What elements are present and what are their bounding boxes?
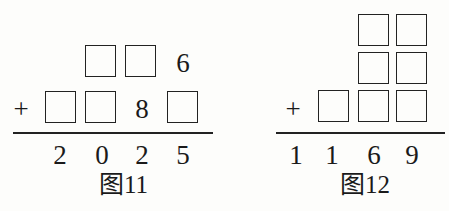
fig11-sum-digit-3: 2 — [127, 142, 157, 169]
fig11-row1-box-1[interactable] — [85, 45, 116, 77]
fig12-row1-box-2[interactable] — [396, 14, 427, 46]
fig12-row3-box-3[interactable] — [396, 90, 427, 122]
fig12-plus-sign: + — [278, 96, 308, 123]
fig11-row1-box-2[interactable] — [125, 45, 156, 77]
fig12-row2-box-1[interactable] — [358, 52, 389, 84]
fig12-sum-line — [276, 132, 445, 134]
fig11-sum-digit-4: 5 — [168, 142, 198, 169]
fig12-row3-box-1[interactable] — [318, 90, 349, 122]
fig12-sum-digit-2: 1 — [317, 142, 347, 169]
fig11-row2-box-2[interactable] — [85, 91, 116, 123]
fig11-row2-box-1[interactable] — [45, 91, 76, 123]
fig11-caption: 图11 — [99, 172, 148, 197]
fig11-row2-box-3[interactable] — [167, 91, 198, 123]
fig11-plus-sign: + — [6, 96, 36, 123]
fig12-row1-box-1[interactable] — [358, 14, 389, 46]
fig11-row2-digit: 8 — [127, 96, 157, 123]
fig12-sum-digit-3: 6 — [359, 142, 389, 169]
fig12-caption: 图12 — [340, 172, 390, 197]
fig12-sum-digit-1: 1 — [281, 142, 311, 169]
fig11-sum-digit-2: 0 — [87, 142, 117, 169]
fig11-row1-digit: 6 — [168, 50, 198, 77]
fig11-sum-line — [13, 132, 213, 134]
fig12-row2-box-2[interactable] — [396, 52, 427, 84]
fig12-sum-digit-4: 9 — [397, 142, 427, 169]
fig11-sum-digit-1: 2 — [45, 142, 75, 169]
fig12-row3-box-2[interactable] — [358, 90, 389, 122]
